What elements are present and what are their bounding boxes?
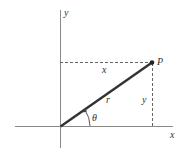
point-p xyxy=(150,60,155,65)
diagram-svg: y x P x r y θ xyxy=(0,0,184,158)
y-axis-label: y xyxy=(63,7,69,18)
angle-arc xyxy=(85,110,90,126)
horizontal-segment-label: x xyxy=(101,64,107,75)
vertical-segment-label: y xyxy=(141,94,147,105)
point-p-label: P xyxy=(156,56,163,67)
polar-coordinates-diagram: y x P x r y θ xyxy=(0,0,184,158)
angle-theta-label: θ xyxy=(92,112,97,123)
x-axis-label: x xyxy=(169,129,175,140)
radius-label: r xyxy=(106,94,110,105)
